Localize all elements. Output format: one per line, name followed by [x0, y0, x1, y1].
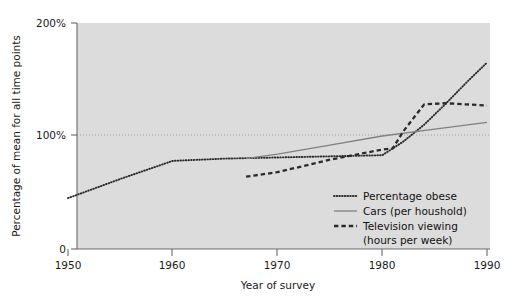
- legend-label-television-viewing-units: (hours per week): [363, 234, 452, 246]
- x-tick-label-1980: 1980: [369, 259, 396, 271]
- legend-label-television-viewing: Television viewing: [362, 220, 458, 232]
- x-tick-label-1960: 1960: [159, 259, 186, 271]
- line-chart: 200% 100% 0 1950 1960 1970 1980 1990 Yea…: [0, 0, 513, 303]
- legend-label-percentage-obese: Percentage obese: [363, 190, 457, 202]
- x-tick-label-1970: 1970: [264, 259, 291, 271]
- y-tick-label-0: 0: [59, 243, 66, 255]
- chart-figure: 200% 100% 0 1950 1960 1970 1980 1990 Yea…: [0, 0, 513, 303]
- y-tick-label-100: 100%: [36, 129, 66, 141]
- y-tick-label-200: 200%: [36, 17, 66, 29]
- x-tick-label-1990: 1990: [474, 259, 501, 271]
- legend-label-cars: Cars (per houshold): [363, 205, 467, 217]
- x-tick-label-1950: 1950: [55, 259, 82, 271]
- x-axis-title: Year of survey: [240, 279, 315, 291]
- y-axis-title: Percentage of mean for all time points: [10, 35, 22, 237]
